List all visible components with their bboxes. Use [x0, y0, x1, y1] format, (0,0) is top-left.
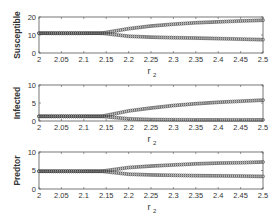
- x-tick-label: 2: [37, 55, 41, 64]
- y-tick-label: 0: [32, 49, 36, 58]
- x-tick-label: 2: [37, 123, 41, 132]
- x-axis-label: r: [148, 202, 151, 212]
- x-tick-label: 2.2: [123, 123, 133, 132]
- x-axis-label-subscript: 2: [153, 208, 157, 214]
- x-tick-label: 2.4: [213, 191, 223, 200]
- panel-infected: 22.052.12.152.22.252.32.352.42.452.50510…: [12, 81, 268, 146]
- x-tick-label: 2.5: [258, 123, 268, 132]
- x-tick-label: 2.4: [213, 55, 223, 64]
- x-tick-label: 2.1: [79, 55, 89, 64]
- x-axis-label-subscript: 2: [153, 72, 157, 78]
- x-tick-label: 2.45: [233, 55, 248, 64]
- x-tick-label: 2.25: [144, 191, 159, 200]
- bifurcation-figure: 22.052.12.152.22.252.32.352.42.452.50102…: [0, 0, 280, 224]
- x-tick-label: 2.3: [168, 191, 178, 200]
- x-tick-label: 2.4: [213, 123, 223, 132]
- x-tick-label: 2.35: [188, 55, 203, 64]
- x-tick-label: 2.2: [123, 55, 133, 64]
- x-tick-label: 2.15: [99, 123, 114, 132]
- x-tick-label: 2.1: [79, 191, 89, 200]
- y-tick-label: 10: [28, 148, 36, 157]
- x-tick-label: 2.25: [144, 123, 159, 132]
- y-tick-label: 5: [32, 99, 36, 108]
- y-tick-label: 0: [32, 117, 36, 126]
- data-markers: [38, 160, 265, 177]
- y-tick-label: 10: [28, 81, 36, 90]
- x-tick-label: 2.05: [54, 191, 69, 200]
- y-tick-label: 20: [28, 13, 36, 22]
- x-tick-label: 2.5: [258, 191, 268, 200]
- x-tick-label: 2.3: [168, 123, 178, 132]
- y-axis-label: Susceptible: [12, 11, 22, 59]
- x-tick-label: 2.05: [54, 123, 69, 132]
- y-tick-label: 10: [28, 31, 36, 40]
- x-tick-label: 2.05: [54, 55, 69, 64]
- x-tick-label: 2.25: [144, 55, 159, 64]
- x-axis-label: r: [148, 134, 151, 144]
- x-tick-label: 2.2: [123, 191, 133, 200]
- x-tick-label: 2.1: [79, 123, 89, 132]
- y-axis-label: Infected: [12, 87, 22, 120]
- x-axis-label: r: [148, 66, 151, 76]
- x-tick-label: 2.15: [99, 191, 114, 200]
- x-tick-label: 2.45: [233, 123, 248, 132]
- x-tick-label: 2: [37, 191, 41, 200]
- x-tick-label: 2.35: [188, 191, 203, 200]
- data-markers: [38, 19, 265, 41]
- y-tick-label: 5: [32, 166, 36, 175]
- y-tick-label: 0: [32, 185, 36, 194]
- x-tick-label: 2.35: [188, 123, 203, 132]
- panel-susceptible: 22.052.12.152.22.252.32.352.42.452.50102…: [12, 11, 268, 78]
- x-tick-label: 2.15: [99, 55, 114, 64]
- panel-predtor: 22.052.12.152.22.252.32.352.42.452.50510…: [12, 148, 268, 214]
- x-tick-label: 2.45: [233, 191, 248, 200]
- y-axis-label: Predtor: [12, 155, 22, 186]
- x-tick-label: 2.3: [168, 55, 178, 64]
- data-markers: [38, 99, 265, 122]
- x-tick-label: 2.5: [258, 55, 268, 64]
- x-axis-label-subscript: 2: [153, 140, 157, 146]
